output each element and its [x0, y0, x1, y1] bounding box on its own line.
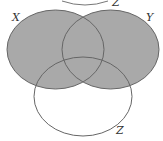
set-y-label: Y	[146, 11, 155, 24]
set-z-label: Z	[115, 124, 124, 137]
top-partial-label: Z	[111, 0, 120, 9]
top-partial-arc	[62, 1, 108, 5]
set-x-label: X	[11, 11, 21, 24]
venn-diagram: Z X Y Z	[0, 0, 163, 141]
